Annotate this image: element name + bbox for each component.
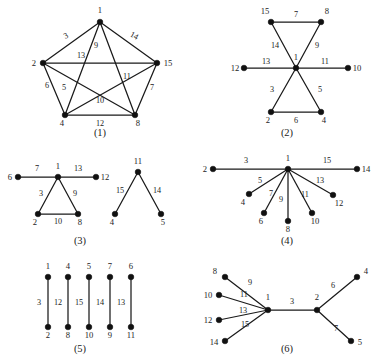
vertex-8 (132, 112, 138, 118)
vertex-label-10: 10 (204, 290, 213, 300)
edge-label-3: 3 (290, 297, 294, 306)
edge-label-13: 13 (316, 176, 324, 185)
vertex-label-layer: 6112281145 (8, 156, 165, 227)
vertex-4 (318, 109, 324, 115)
vertex-label-10: 10 (311, 216, 320, 226)
vertex-layer (241, 19, 351, 115)
vertex-label-15: 15 (164, 58, 173, 68)
vertex-2 (210, 166, 216, 172)
vertex-6 (15, 174, 21, 180)
vertex-label-5: 5 (87, 261, 91, 271)
edge-label-7: 7 (294, 10, 298, 19)
vertex-8 (285, 218, 291, 224)
vertex-8 (75, 211, 81, 217)
edge-label-11: 11 (301, 190, 309, 199)
vertex-14 (354, 166, 360, 172)
vertex-label-6: 6 (259, 216, 264, 226)
vertex-label-12: 12 (204, 315, 213, 325)
vertex-label-4: 4 (364, 266, 369, 276)
vertex-label-9: 9 (108, 330, 112, 340)
vertex-11 (135, 169, 141, 175)
vertex-label-2: 2 (315, 292, 319, 302)
edge-label-3: 3 (244, 156, 248, 165)
vertex-2 (314, 307, 320, 313)
vertex-label-4: 4 (66, 261, 71, 271)
edge-3 (43, 22, 100, 63)
vertex-10 (86, 324, 92, 330)
graph-figure-svg: 314139116510712121548(1)7149131135615811… (0, 0, 379, 363)
vertex-9 (107, 324, 113, 330)
vertex-15 (154, 60, 160, 66)
panel-caption: (5) (74, 343, 87, 355)
vertex-1 (265, 307, 271, 313)
panel-caption: (1) (94, 127, 107, 139)
vertex-1 (293, 65, 299, 71)
edge-label-7: 7 (269, 189, 273, 198)
vertex-8 (318, 19, 324, 25)
edge-label-9: 9 (94, 41, 98, 50)
edge-label-3: 3 (270, 85, 274, 94)
vertex-label-5: 5 (358, 337, 362, 347)
edge-label-7: 7 (334, 324, 338, 333)
vertex-7 (107, 274, 113, 280)
figure-sheet: 314139116510712121548(1)7149131135615811… (0, 0, 379, 363)
vertex-4 (65, 274, 71, 280)
vertex-label-1: 1 (46, 261, 50, 271)
vertex-10 (309, 210, 315, 216)
vertex-layer (216, 274, 360, 344)
edge-5 (43, 63, 135, 115)
vertex-label-8: 8 (66, 330, 70, 340)
vertex-label-4: 4 (241, 197, 246, 207)
vertex-label-2: 2 (33, 217, 37, 227)
edge-label-13: 13 (77, 51, 85, 60)
edge-label-3: 3 (37, 298, 41, 307)
vertex-label-12: 12 (335, 198, 344, 208)
edge-label-3: 3 (39, 189, 43, 198)
vertex-1 (55, 174, 61, 180)
edge-3 (271, 68, 296, 112)
vertex-4 (112, 211, 118, 217)
edge-label-11: 11 (321, 57, 329, 66)
edge-label-6: 6 (294, 116, 298, 125)
vertex-label-8: 8 (136, 118, 140, 128)
panel-caption: (4) (281, 235, 294, 247)
vertex-label-8: 8 (286, 224, 290, 234)
vertex-1 (285, 166, 291, 172)
edge-label-layer: 314139116510712 (45, 30, 154, 128)
vertex-label-6: 6 (8, 172, 13, 182)
vertex-label-12: 12 (231, 63, 240, 73)
vertex-label-11: 11 (127, 330, 135, 340)
edge-label-9: 9 (73, 189, 77, 198)
vertex-15 (268, 19, 274, 25)
vertex-label-1: 1 (286, 153, 290, 163)
edge-label-7: 7 (35, 164, 39, 173)
edge-label-15: 15 (323, 156, 331, 165)
vertex-label-14: 14 (210, 337, 219, 347)
edge-6 (317, 277, 357, 310)
vertex-12 (241, 65, 247, 71)
graph-panel-2: 714913113561581121024(2) (231, 6, 362, 139)
vertex-label-7: 7 (108, 261, 113, 271)
vertex-10 (345, 65, 351, 71)
vertex-label-8: 8 (213, 266, 217, 276)
graph-panel-1: 314139116510712121548(1) (32, 5, 172, 139)
vertex-label-10: 10 (353, 63, 362, 73)
vertex-label-14: 14 (362, 164, 371, 174)
edge-label-11: 11 (240, 290, 248, 299)
panel-caption: (2) (281, 127, 294, 139)
vertex-4 (246, 191, 252, 197)
graph-panel-4: 315579111312144681012(4) (203, 153, 371, 247)
edge-label-5: 5 (258, 176, 262, 185)
edge-label-13: 13 (74, 164, 82, 173)
vertex-1 (45, 274, 51, 280)
vertex-1 (97, 19, 103, 25)
panel-caption: (3) (74, 235, 87, 247)
vertex-label-4: 4 (322, 115, 327, 125)
edge-label-15: 15 (241, 320, 249, 329)
edge-10 (65, 63, 157, 115)
vertex-8 (222, 274, 228, 280)
vertex-10 (216, 292, 222, 298)
vertex-2 (45, 324, 51, 330)
edge-label-9: 9 (248, 278, 252, 287)
edge-label-3: 3 (62, 31, 70, 41)
